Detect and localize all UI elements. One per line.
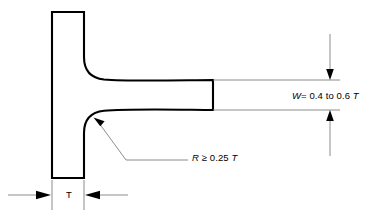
fillet-radius-value: 0.25 [210,152,229,163]
tee-section-drawing [0,0,381,221]
radius-leader-line [99,123,188,160]
tee-section-outline [52,12,213,178]
fillet-radius-variable: R [192,152,199,163]
thickness-arrowhead-left-icon [85,191,100,199]
flange-width-unit: T [353,90,359,101]
flange-width-value: 0.4 to 0.6 [309,90,350,101]
thickness-arrowhead-right-icon [36,191,51,199]
fillet-radius-label: R ≥ 0.25 T [192,153,237,163]
dimension-arrowhead-down-icon [326,69,334,80]
dimension-arrowhead-up-icon [326,110,334,121]
diagram-canvas: W= 0.4 to 0.6 T R ≥ 0.25 T T [0,0,381,221]
flange-width-variable: W [292,90,301,101]
web-thickness-label: T [66,190,72,200]
radius-leader-arrowhead-icon [94,118,105,127]
fillet-radius-relation: ≥ [202,152,207,163]
flange-width-label: W= 0.4 to 0.6 T [292,91,359,101]
flange-width-relation: = [301,90,307,101]
fillet-radius-unit: T [231,152,237,163]
